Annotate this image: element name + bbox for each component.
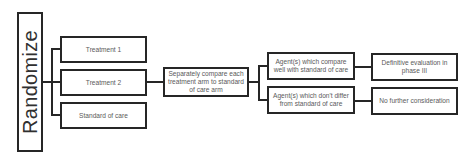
- arm-label: Standard of care: [79, 112, 128, 120]
- comparison-label: Separately compare each treatment arm to…: [167, 70, 245, 94]
- connector: [51, 81, 60, 83]
- outcome-label: Agent(s) which don't differ from standar…: [271, 92, 351, 108]
- arm-label: Treatment 2: [86, 79, 121, 87]
- outcome-compare-well: Agent(s) which compare well with standar…: [267, 52, 355, 80]
- connector: [51, 48, 60, 50]
- outcome-no-difference: Agent(s) which don't differ from standar…: [267, 86, 355, 114]
- next-phase-iii: Definitive evaluation in phase III: [371, 53, 458, 81]
- randomize-box: Randomize: [17, 12, 43, 152]
- next-no-further: No further consideration: [371, 87, 458, 115]
- next-step-label: Definitive evaluation in phase III: [375, 59, 454, 75]
- connector: [355, 100, 371, 102]
- connector: [355, 66, 371, 68]
- comparison-box: Separately compare each treatment arm to…: [163, 67, 249, 97]
- connector: [147, 81, 163, 83]
- connector: [51, 114, 60, 116]
- arm-standard-of-care: Standard of care: [60, 102, 147, 129]
- connector: [258, 65, 260, 100]
- connector: [43, 81, 51, 83]
- arm-treatment-2: Treatment 2: [60, 69, 147, 96]
- arm-treatment-1: Treatment 1: [60, 36, 147, 63]
- next-step-label: No further consideration: [379, 97, 449, 105]
- outcome-label: Agent(s) which compare well with standar…: [271, 58, 351, 74]
- arm-label: Treatment 1: [86, 46, 121, 54]
- connector: [258, 65, 267, 67]
- randomize-label: Randomize: [19, 30, 42, 134]
- connector: [258, 99, 267, 101]
